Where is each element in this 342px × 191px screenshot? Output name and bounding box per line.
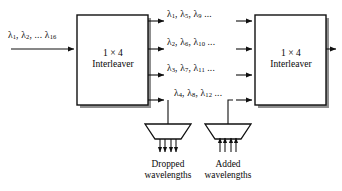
added-caption-line2: wavelengths (185, 170, 271, 181)
input-wavelength-label: λ1, λ2, ... λ16 (8, 30, 56, 41)
added-trapezoid (205, 124, 251, 139)
add-routing-line (228, 100, 233, 124)
channel-label-1: λ1, λ5, λ9 ... (167, 9, 212, 20)
left-interleaver-label: 1 × 4 Interleaver (76, 47, 150, 70)
dropped-port-group (145, 124, 191, 152)
added-caption-line1: Added (185, 159, 271, 170)
channel-label-2: λ2, λ6, λ10 ... (167, 37, 215, 48)
dropped-fiber-arrows (160, 139, 176, 152)
added-wavelengths-caption: Added wavelengths (185, 159, 271, 181)
right-interleaver-line1: 1 × 4 (254, 47, 328, 58)
added-fiber-arrows (220, 138, 236, 152)
channel-label-4: λ4, λ8, λ12 ... (174, 88, 222, 99)
channel-label-3: λ3, λ7, λ11 ... (167, 63, 215, 74)
left-interleaver-line1: 1 × 4 (76, 47, 150, 58)
dropped-trapezoid (145, 124, 191, 139)
added-port-group (205, 124, 251, 152)
interleaver-diagram: λ1, λ2, ... λ16 1 × 4 Interleaver 1 × 4 … (0, 0, 342, 191)
left-interleaver-line2: Interleaver (76, 58, 150, 69)
right-interleaver-label: 1 × 4 Interleaver (254, 47, 328, 70)
right-input-arrows (236, 21, 252, 100)
right-interleaver-line2: Interleaver (254, 58, 328, 69)
